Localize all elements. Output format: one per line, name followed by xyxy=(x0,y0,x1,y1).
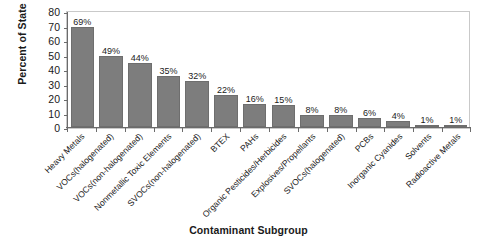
bar-slot: 69% xyxy=(68,11,97,127)
bar-value-label: 32% xyxy=(188,71,206,81)
bar: 4% xyxy=(386,121,410,127)
bar-value-label: 8% xyxy=(306,105,319,115)
bar-value-label: 6% xyxy=(363,108,376,118)
bar: 69% xyxy=(71,27,95,127)
bar-slot: 4% xyxy=(384,11,413,127)
y-tick-label: 60 xyxy=(48,36,60,46)
bar: 1% xyxy=(415,125,439,127)
bar-slot: 44% xyxy=(125,11,154,127)
bar-value-label: 16% xyxy=(246,94,264,104)
bar-slot: 6% xyxy=(355,11,384,127)
y-tick-mark xyxy=(64,42,68,43)
y-tick-label: 10 xyxy=(48,109,60,119)
y-tick-mark xyxy=(64,28,68,29)
bar-value-label: 44% xyxy=(131,53,149,63)
bar-value-label: 1% xyxy=(449,115,462,125)
bar-value-label: 22% xyxy=(217,85,235,95)
bar-slot: 16% xyxy=(240,11,269,127)
bar-value-label: 35% xyxy=(159,66,177,76)
bar-slot: 49% xyxy=(97,11,126,127)
bar-value-label: 1% xyxy=(420,115,433,125)
y-tick-label: 40 xyxy=(48,65,60,75)
bar: 49% xyxy=(99,56,123,127)
x-axis-title: Contaminant Subgroup xyxy=(0,224,497,236)
y-tick-mark xyxy=(64,57,68,58)
bar-slot: 35% xyxy=(154,11,183,127)
bar: 15% xyxy=(272,105,296,127)
bar-value-label: 15% xyxy=(274,95,292,105)
y-tick-mark xyxy=(64,100,68,101)
bar: 8% xyxy=(329,115,353,127)
bar-chart-figure: Percent of State 80706050403020100 69%49… xyxy=(0,0,497,249)
y-tick-label: 0 xyxy=(54,123,60,133)
y-tick-mark xyxy=(64,13,68,14)
y-tick-mark xyxy=(64,86,68,87)
bar: 32% xyxy=(185,81,209,127)
bar-slot: 1% xyxy=(413,11,442,127)
y-tick-mark xyxy=(64,115,68,116)
plot-area: 69%49%44%35%32%22%16%15%8%8%6%4%1%1% xyxy=(66,11,470,129)
bar-value-label: 69% xyxy=(73,17,91,27)
bar: 1% xyxy=(444,125,468,127)
bar-slot: 15% xyxy=(269,11,298,127)
bar-value-label: 4% xyxy=(392,111,405,121)
bar-slot: 8% xyxy=(326,11,355,127)
y-tick-label: 30 xyxy=(48,80,60,90)
y-axis-tick-labels: 80706050403020100 xyxy=(26,11,60,129)
bar-value-label: 49% xyxy=(102,46,120,56)
bar: 6% xyxy=(358,118,382,127)
bar-series: 69%49%44%35%32%22%16%15%8%8%6%4%1%1% xyxy=(68,11,470,127)
bar: 8% xyxy=(300,115,324,127)
bar-value-label: 8% xyxy=(334,105,347,115)
bar-slot: 22% xyxy=(212,11,241,127)
y-tick-label: 80 xyxy=(48,7,60,17)
bar: 16% xyxy=(243,104,267,127)
bar: 35% xyxy=(157,76,181,127)
y-tick-label: 20 xyxy=(48,94,60,104)
y-tick-label: 50 xyxy=(48,51,60,61)
bar: 44% xyxy=(128,63,152,127)
y-tick-label: 70 xyxy=(48,22,60,32)
bar-slot: 32% xyxy=(183,11,212,127)
bar-slot: 1% xyxy=(441,11,470,127)
x-axis-tick-labels: Heavy MetalsVOCs(halogenated)VOCs(non-ha… xyxy=(66,130,470,216)
x-tick-mark xyxy=(470,128,471,132)
bar: 22% xyxy=(214,95,238,127)
bar-slot: 8% xyxy=(298,11,327,127)
y-tick-mark xyxy=(64,71,68,72)
